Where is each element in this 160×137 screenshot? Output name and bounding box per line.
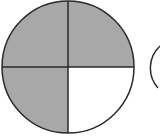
fraction-circle: [2, 1, 134, 133]
quadrant-top-left: [2, 1, 68, 67]
quadrant-bottom-right: [68, 67, 134, 133]
fraction-diagram: [0, 0, 160, 137]
quadrant-top-right: [68, 1, 134, 67]
partial-second-circle: [150, 46, 160, 88]
quadrant-bottom-left: [2, 67, 68, 133]
